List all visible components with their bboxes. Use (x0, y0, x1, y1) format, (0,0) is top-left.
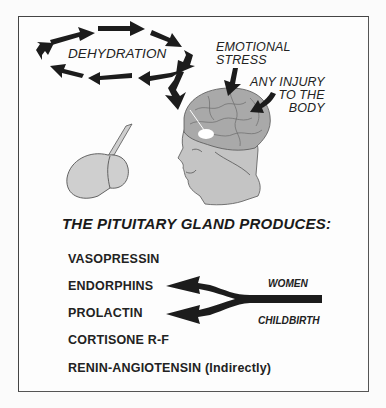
women-label: WOMEN (268, 277, 308, 289)
dehydration-label: DEHYDRATION (68, 47, 166, 60)
illustration (0, 0, 386, 408)
childbirth-label: CHILDBIRTH (258, 314, 320, 326)
emotional-stress-label: EMOTIONAL STRESS (216, 41, 291, 67)
hormone-renin-angiotensin: RENIN-ANGIOTENSIN (Indirectly) (68, 361, 271, 375)
hormone-cortisone-rf: CORTISONE R-F (68, 333, 169, 347)
pituitary-highlight (198, 129, 214, 139)
pituitary-title: THE PITUITARY GLAND PRODUCES: (62, 215, 331, 232)
hormone-vasopressin: VASOPRESSIN (68, 252, 160, 266)
any-injury-line-3: BODY (250, 102, 325, 115)
hormone-prolactin: PROLACTIN (68, 306, 143, 320)
pituitary-gland-enlarged (67, 124, 132, 198)
emotional-stress-line-2: STRESS (216, 54, 291, 67)
hormone-endorphins: ENDORPHINS (68, 279, 153, 293)
any-injury-label: ANY INJURY TO THE BODY (250, 76, 325, 115)
